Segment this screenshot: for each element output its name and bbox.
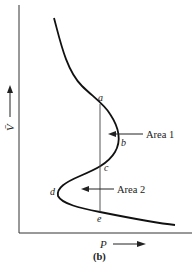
point-e-label: e: [97, 213, 102, 224]
point-d-label: d: [50, 186, 56, 197]
area1-label: Area 1: [146, 129, 174, 140]
area2-arrow-icon: [81, 186, 114, 192]
figure-caption: (b): [93, 251, 106, 263]
point-a-label: a: [98, 92, 103, 103]
point-c-label: c: [104, 162, 109, 173]
isotherm-curve: [54, 18, 175, 225]
area2-label: Area 2: [117, 184, 145, 195]
y-axis-label: V̄: [4, 123, 16, 131]
x-axis-arrow-icon: [113, 241, 146, 247]
x-axis-label: P: [99, 238, 107, 250]
pv-isotherm-diagram: V̄ P a b c d e Area 1 Area 2 (b): [0, 0, 194, 263]
y-axis-arrow-icon: [7, 85, 13, 117]
point-b-label: b: [121, 137, 126, 148]
